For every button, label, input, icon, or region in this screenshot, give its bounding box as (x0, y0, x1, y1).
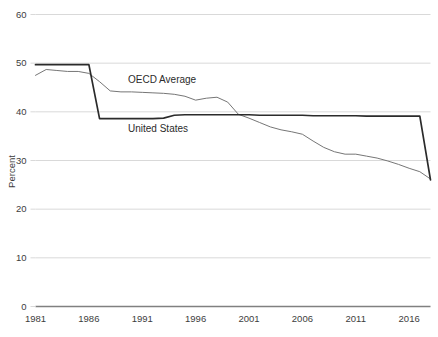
y-tick-label: 50 (5, 58, 27, 68)
oecd-average-label: OECD Average (128, 75, 196, 85)
x-tick-label: 2006 (282, 314, 322, 324)
y-tick-label: 30 (5, 156, 27, 166)
x-tick-label: 1986 (69, 314, 109, 324)
x-tick-label: 2016 (389, 314, 429, 324)
y-tick-label: 60 (5, 10, 27, 20)
y-axis-title: Percent (6, 142, 17, 202)
y-tick-label: 20 (5, 204, 27, 214)
x-tick-label: 2011 (336, 314, 376, 324)
line-chart-plot (0, 0, 438, 337)
y-tick-label: 10 (5, 253, 27, 263)
y-tick-label: 40 (5, 107, 27, 117)
x-tick-label: 1991 (122, 314, 162, 324)
series-paths-group (36, 65, 431, 180)
x-tick-label: 1996 (176, 314, 216, 324)
series-line-oecd-average (36, 69, 431, 179)
y-tick-label: 0 (5, 302, 27, 312)
x-tick-label: 1981 (16, 314, 56, 324)
series-line-united-states (36, 65, 431, 180)
united-states-label: United States (128, 124, 188, 134)
chart-container: Percent 0102030405060 198119861991199620… (0, 0, 438, 337)
x-tick-label: 2001 (229, 314, 269, 324)
gridlines-group (36, 15, 431, 258)
